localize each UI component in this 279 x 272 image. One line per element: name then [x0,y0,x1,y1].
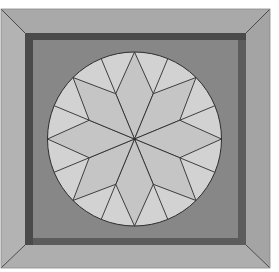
inner-border-shadow [25,33,33,245]
star-medallion [48,52,222,226]
frame-bevel-left [1,9,25,268]
frame-bevel-right [246,9,270,268]
frame-bevel-top [1,9,270,33]
inner-border-shadow [25,33,246,40]
star-center-point [133,138,136,141]
quilt-block-diagram [0,0,279,272]
frame-bevel-bottom [1,245,270,268]
